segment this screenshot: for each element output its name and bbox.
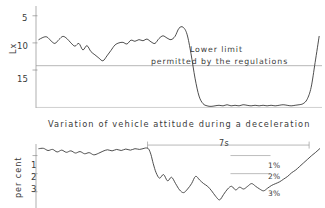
bottom-chart-ytick-1: 1 xyxy=(31,160,36,170)
legend-label-1-percent: 1% xyxy=(268,161,281,170)
figure-root: 5 10 15 Lx Lower limit permitted by the … xyxy=(0,0,325,208)
illuminance-trace xyxy=(39,27,319,107)
top-chart-ytick-15: 15 xyxy=(17,74,28,84)
top-chart-ytick-10: 10 xyxy=(17,41,28,51)
seven-second-span-label: 7s xyxy=(219,139,229,148)
top-chart-ytick-5: 5 xyxy=(22,13,27,23)
bottom-chart-y-axis-title: per cent xyxy=(14,157,23,198)
top-chart-canvas xyxy=(0,0,325,112)
bottom-chart-ytick-3: 3 xyxy=(31,184,36,194)
lower-limit-annotation-line1: Lower limit xyxy=(190,45,243,54)
bottom-chart-ytick-2: 2 xyxy=(31,172,36,182)
figure-caption: Variation of vehicle attitude during a d… xyxy=(48,119,311,129)
legend-label-2-percent: 2% xyxy=(268,172,281,181)
legend-label-3-percent: 3% xyxy=(268,189,281,198)
lower-limit-annotation-line2: permitted by the regulations xyxy=(151,57,288,66)
top-chart-y-axis-title: Lx xyxy=(9,43,18,54)
